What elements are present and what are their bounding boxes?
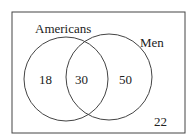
neither-value: 22 — [154, 114, 167, 129]
men-only-value: 50 — [119, 72, 132, 87]
americans-label: Americans — [35, 21, 91, 36]
men-label: Men — [140, 35, 164, 50]
americans-only-value: 18 — [39, 72, 52, 87]
venn-diagram: Americans Men 18 30 50 22 — [0, 0, 190, 140]
both-value: 30 — [75, 72, 88, 87]
